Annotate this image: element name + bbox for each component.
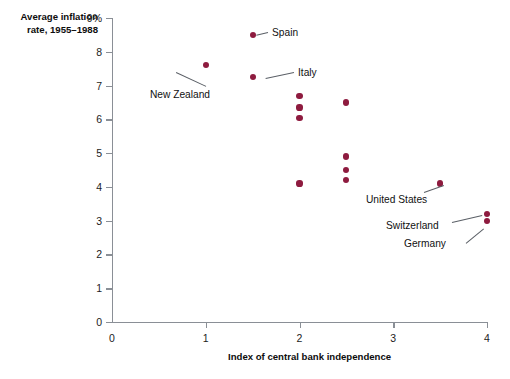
annotation-leader-new-zealand xyxy=(176,72,206,87)
y-tick-label: 6 xyxy=(60,114,102,125)
y-tick-label: 7 xyxy=(60,81,102,92)
annotation-label-spain: Spain xyxy=(272,28,298,38)
y-tick-mark xyxy=(106,52,112,53)
y-tick-label: 2 xyxy=(60,249,102,260)
y-tick-mark xyxy=(106,322,112,323)
y-tick-label: 9% xyxy=(60,13,102,24)
data-point-new-zealand xyxy=(203,62,209,68)
x-tick-label: 2 xyxy=(285,333,315,344)
x-tick-label: 3 xyxy=(378,333,408,344)
y-tick-label: 5 xyxy=(60,148,102,159)
data-point xyxy=(343,153,349,159)
x-tick-mark xyxy=(300,322,301,328)
y-tick-label: 3 xyxy=(60,216,102,227)
data-point xyxy=(343,177,349,183)
y-tick-mark xyxy=(106,86,112,87)
x-tick-label: 0 xyxy=(97,333,127,344)
annotation-label-switzerland: Switzerland xyxy=(386,221,439,231)
y-tick-mark xyxy=(106,153,112,154)
y-tick-label: 0 xyxy=(60,317,102,328)
x-axis-title: Index of central bank independence xyxy=(228,352,391,362)
annotation-label-germany: Germany xyxy=(404,239,446,249)
y-tick-mark xyxy=(106,288,112,289)
x-tick-mark xyxy=(393,322,394,328)
y-tick-mark xyxy=(106,187,112,188)
annotation-label-italy: Italy xyxy=(298,68,317,78)
data-point-spain xyxy=(250,32,256,38)
data-point xyxy=(296,104,302,110)
annotation-leader-switzerland xyxy=(452,215,482,223)
scatter-chart: Average inflation rate, 1955–1988 Index … xyxy=(0,0,510,379)
annotation-leader-germany xyxy=(466,228,485,244)
data-point xyxy=(343,167,349,173)
data-point-germany xyxy=(484,218,490,224)
annotation-leader-united-states xyxy=(424,185,444,193)
data-point xyxy=(296,180,302,186)
x-tick-label: 1 xyxy=(191,333,221,344)
data-point-switzerland xyxy=(484,211,490,217)
y-tick-mark xyxy=(106,254,112,255)
annotation-leader-spain xyxy=(256,32,268,36)
y-tick-label: 8 xyxy=(60,47,102,58)
y-tick-mark xyxy=(106,221,112,222)
data-point xyxy=(296,93,302,99)
y-axis-line xyxy=(112,18,113,323)
data-point xyxy=(343,99,349,105)
x-tick-mark xyxy=(487,322,488,328)
x-tick-mark xyxy=(206,322,207,328)
annotation-label-new-zealand: New Zealand xyxy=(150,90,210,100)
annotation-leader-italy xyxy=(266,72,294,79)
data-point xyxy=(296,115,302,121)
y-tick-label: 1 xyxy=(60,283,102,294)
y-tick-mark xyxy=(106,18,112,19)
x-tick-label: 4 xyxy=(472,333,502,344)
y-tick-mark xyxy=(106,119,112,120)
y-tick-label: 4 xyxy=(60,182,102,193)
annotation-label-united-states: United States xyxy=(366,195,427,205)
data-point-italy xyxy=(250,74,256,80)
